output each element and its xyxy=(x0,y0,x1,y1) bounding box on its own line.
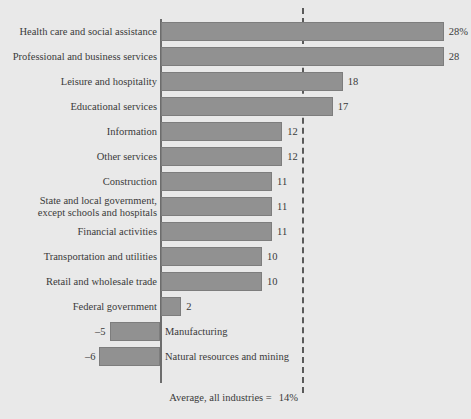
bar-value-label: 2 xyxy=(186,294,191,319)
bar-value-label: 28% xyxy=(449,19,468,44)
bar-row: Manufacturing–5 xyxy=(0,319,471,344)
bar xyxy=(161,22,444,41)
category-label: State and local government,except school… xyxy=(0,195,157,219)
category-label: Transportation and utilities xyxy=(0,244,157,269)
bar xyxy=(161,47,444,66)
bar xyxy=(110,322,161,341)
bar xyxy=(161,247,262,266)
bar-row: Information12 xyxy=(0,119,471,144)
category-label: Leisure and hospitality xyxy=(0,69,157,94)
bar-value-label: 11 xyxy=(277,169,287,194)
category-label-line: Educational services xyxy=(0,94,157,119)
bar xyxy=(161,172,272,191)
category-label-line: Federal government xyxy=(0,294,157,319)
category-label-line: Professional and business services xyxy=(0,44,157,69)
bar-row: Natural resources and mining–6 xyxy=(0,344,471,369)
bar xyxy=(99,347,160,366)
bar xyxy=(161,272,262,291)
bar xyxy=(161,297,181,316)
bar-row: Construction11 xyxy=(0,169,471,194)
category-label-line: State and local government, xyxy=(0,195,157,207)
bar-value-label: 17 xyxy=(338,94,349,119)
bar-value-label: 12 xyxy=(287,119,298,144)
bar xyxy=(161,97,333,116)
bar-value-label: –6 xyxy=(85,344,96,369)
category-label-line: except schools and hospitals xyxy=(0,207,157,219)
category-label-line: Financial activities xyxy=(0,219,157,244)
category-label-line: Construction xyxy=(0,169,157,194)
bar-row: State and local government,except school… xyxy=(0,194,471,219)
bar-row: Other services12 xyxy=(0,144,471,169)
bar-chart: Health care and social assistance28%Prof… xyxy=(0,0,471,419)
category-label-line: Other services xyxy=(0,144,157,169)
category-label: Educational services xyxy=(0,94,157,119)
bar-value-label: 10 xyxy=(267,244,278,269)
bar-row: Transportation and utilities10 xyxy=(0,244,471,269)
category-label: Other services xyxy=(0,144,157,169)
bar-value-label: 12 xyxy=(287,144,298,169)
category-label-line: Manufacturing xyxy=(165,319,465,344)
bar-row: Retail and wholesale trade10 xyxy=(0,269,471,294)
category-label: Retail and wholesale trade xyxy=(0,269,157,294)
category-label: Professional and business services xyxy=(0,44,157,69)
category-label-line: Transportation and utilities xyxy=(0,244,157,269)
category-label: Federal government xyxy=(0,294,157,319)
bar xyxy=(161,197,272,216)
bar-row: Federal government2 xyxy=(0,294,471,319)
average-annotation: Average, all industries =14% xyxy=(0,392,298,403)
bar xyxy=(161,72,343,91)
bar-row: Professional and business services28 xyxy=(0,44,471,69)
chart-title-clipped xyxy=(0,0,471,3)
category-label: Construction xyxy=(0,169,157,194)
category-label-line: Natural resources and mining xyxy=(165,344,465,369)
bar-rows: Health care and social assistance28%Prof… xyxy=(0,19,471,369)
category-label-line: Health care and social assistance xyxy=(0,19,157,44)
category-label: Natural resources and mining xyxy=(165,344,465,369)
bar-row: Leisure and hospitality18 xyxy=(0,69,471,94)
category-label: Health care and social assistance xyxy=(0,19,157,44)
category-label: Financial activities xyxy=(0,219,157,244)
bar-value-label: 18 xyxy=(348,69,359,94)
category-label-line: Leisure and hospitality xyxy=(0,69,157,94)
bar-value-label: 10 xyxy=(267,269,278,294)
bar-value-label: 28 xyxy=(449,44,460,69)
bar-row: Financial activities11 xyxy=(0,219,471,244)
bar-value-label: 11 xyxy=(277,219,287,244)
average-annotation-value: 14% xyxy=(279,392,298,403)
category-label-line: Retail and wholesale trade xyxy=(0,269,157,294)
category-label: Information xyxy=(0,119,157,144)
bar-value-label: 11 xyxy=(277,194,287,219)
average-annotation-text: Average, all industries = xyxy=(169,392,272,403)
bar-row: Educational services17 xyxy=(0,94,471,119)
category-label-line: Information xyxy=(0,119,157,144)
bar-value-label: –5 xyxy=(95,319,106,344)
bar-row: Health care and social assistance28% xyxy=(0,19,471,44)
bar xyxy=(161,122,282,141)
bar xyxy=(161,147,282,166)
category-label: Manufacturing xyxy=(165,319,465,344)
bar xyxy=(161,222,272,241)
